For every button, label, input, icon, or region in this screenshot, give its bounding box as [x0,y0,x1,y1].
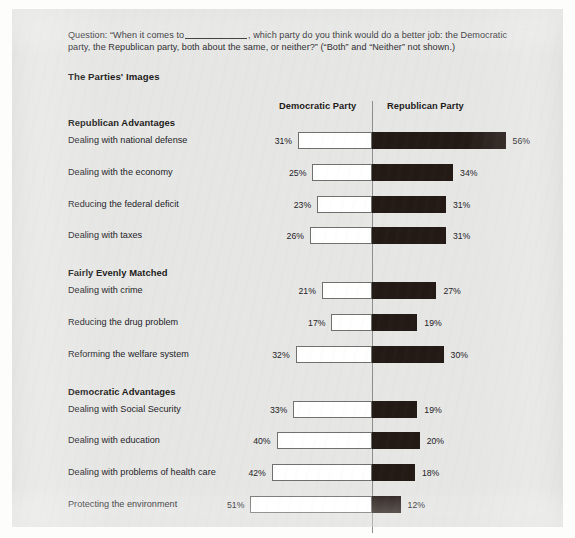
republican-bar [372,432,420,449]
republican-bar [372,227,446,244]
scanned-chart-panel: Question: “When it comes to, which party… [12,9,563,527]
row-label: Dealing with education [68,435,160,445]
democratic-bar [317,196,372,213]
republican-bar [372,401,417,418]
chart-row: Dealing with education40%20% [12,430,563,452]
group-heading: Republican Advantages [68,117,175,128]
democratic-bar [312,164,372,181]
chart-row: Dealing with Social Security33%19% [12,399,563,421]
chart-row: Reducing the federal deficit23%31% [12,194,563,216]
row-label: Reducing the federal deficit [68,199,179,209]
democratic-value-label: 17% [295,318,325,328]
republican-bar [372,196,446,213]
chart-row: Reducing the drug problem17%19% [12,312,563,334]
democratic-bar [293,401,372,418]
republican-value-label: 18% [422,468,439,478]
democratic-value-label: 33% [257,405,287,415]
row-label: Dealing with crime [68,285,143,295]
question-prefix: Question: “When it comes to [68,30,184,40]
republican-value-label: 27% [443,286,460,296]
republican-bar [372,496,401,513]
row-label: Reducing the drug problem [68,317,178,327]
chart-row: Dealing with the economy25%34% [12,162,563,184]
republican-value-label: 30% [451,350,468,360]
republican-value-label: 31% [453,231,470,241]
question-text: Question: “When it comes to, which party… [68,29,520,54]
democratic-bar [322,282,372,299]
chart-row: Reforming the welfare system32%30% [12,344,563,366]
democratic-value-label: 23% [281,200,311,210]
democratic-bar [277,432,372,449]
row-label: Protecting the environment [68,499,177,509]
group-heading: Fairly Evenly Matched [68,267,168,278]
democratic-bar [296,346,372,363]
republican-bar [372,132,506,149]
chart-row: Dealing with crime21%27% [12,280,563,302]
republican-bar [372,346,444,363]
republican-bar [372,164,453,181]
republican-value-label: 12% [408,500,425,510]
democratic-value-label: 31% [262,136,292,146]
democratic-value-label: 42% [236,468,266,478]
chart-title: The Parties' Images [68,71,160,82]
democratic-bar [272,464,372,481]
democratic-value-label: 26% [274,231,304,241]
democratic-value-label: 21% [286,286,316,296]
column-header-republican: Republican Party [387,101,464,111]
row-label: Dealing with taxes [68,230,142,240]
democratic-bar [298,132,372,149]
democratic-value-label: 25% [276,168,306,178]
row-label: Reforming the welfare system [68,349,189,359]
chart-row: Dealing with taxes26%31% [12,225,563,247]
republican-bar [372,282,436,299]
republican-value-label: 19% [424,318,441,328]
question-blank-rule [185,38,247,39]
republican-value-label: 56% [513,136,530,146]
democratic-bar [310,227,372,244]
republican-bar [372,314,417,331]
democratic-bar [250,496,372,513]
row-label: Dealing with the economy [68,167,173,177]
page-canvas: Question: “When it comes to, which party… [0,0,575,538]
republican-bar [372,464,415,481]
democratic-value-label: 51% [214,500,244,510]
republican-value-label: 19% [424,405,441,415]
group-heading: Democratic Advantages [68,386,176,397]
republican-value-label: 20% [427,436,444,446]
democratic-value-label: 32% [260,350,290,360]
row-label: Dealing with problems of health care [68,467,216,477]
row-label: Dealing with Social Security [68,404,181,414]
republican-value-label: 34% [460,168,477,178]
democratic-bar [331,314,372,331]
chart-row: Dealing with national defense31%56% [12,130,563,152]
column-header-democratic: Democratic Party [279,101,356,111]
row-label: Dealing with national defense [68,135,187,145]
chart-row: Protecting the environment51%12% [12,494,563,516]
republican-value-label: 31% [453,200,470,210]
democratic-value-label: 40% [241,436,271,446]
chart-row: Dealing with problems of health care42%1… [12,462,563,484]
